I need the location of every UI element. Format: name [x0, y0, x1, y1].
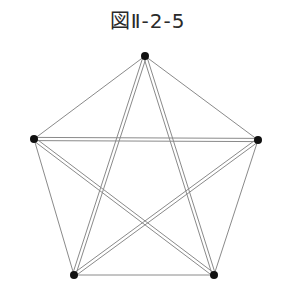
vertex-dot-right [254, 136, 262, 144]
edge-top-right [145, 56, 258, 140]
edge-left-bottom-right-line-b [35, 138, 215, 274]
edge-top-bottom-left-line-b [76, 56, 147, 275]
edge-bottom-left-left [34, 139, 74, 275]
edge-right-bottom-left-line-a [73, 139, 257, 274]
vertex-dot-bottom-left [70, 271, 78, 279]
edge-left-right-line-b [34, 137, 258, 138]
vertex-dot-top [141, 52, 149, 60]
edge-top-bottom-right-line-a [143, 56, 212, 275]
edge-right-bottom-left-line-b [75, 141, 259, 276]
vertex-dot-bottom-right [210, 271, 218, 279]
edges [33, 56, 259, 277]
vertex-dot-left [30, 135, 38, 143]
pentagram-diagram [0, 0, 295, 306]
edge-right-bottom-right [214, 140, 258, 275]
edge-left-bottom-right-line-a [33, 140, 213, 276]
edge-left-right-line-a [34, 141, 258, 142]
edge-top-bottom-right-line-b [147, 56, 216, 275]
edge-left-top [34, 56, 145, 139]
edge-top-bottom-left-line-a [72, 56, 143, 275]
